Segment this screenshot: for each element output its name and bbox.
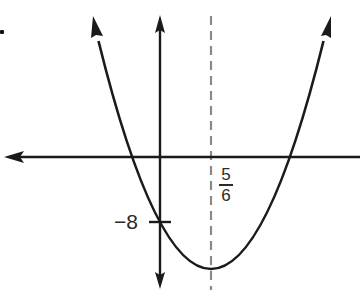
parabola-graph xyxy=(0,0,360,290)
x-axis xyxy=(4,151,360,163)
curve-left-arrow-icon xyxy=(91,16,103,38)
y-intercept-label: −8 xyxy=(114,211,138,232)
curve-right-arrow-icon xyxy=(321,16,331,38)
axis-of-symmetry-label: 5 6 xyxy=(218,166,234,204)
y-axis xyxy=(155,15,165,289)
fraction-denominator: 6 xyxy=(221,186,230,204)
fraction-numerator: 5 xyxy=(221,166,230,184)
